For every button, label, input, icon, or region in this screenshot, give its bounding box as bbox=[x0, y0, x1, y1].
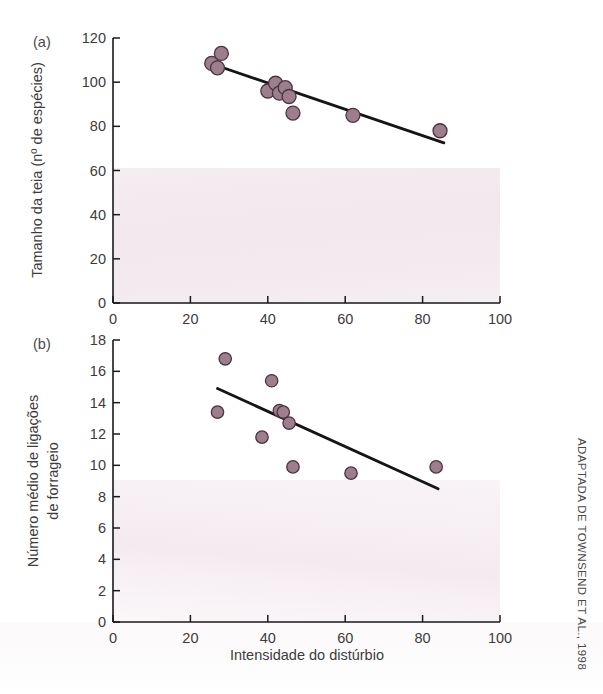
data-point bbox=[282, 90, 296, 104]
x-tick-label: 80 bbox=[415, 311, 431, 327]
panel-b-y-ticks: 024681012141618 bbox=[90, 332, 120, 630]
panel-b-regression-line bbox=[217, 389, 438, 489]
y-tick-label: 16 bbox=[90, 363, 106, 379]
x-tick-label: 60 bbox=[337, 311, 353, 327]
x-tick-label: 40 bbox=[260, 311, 276, 327]
y-tick-label: 60 bbox=[90, 163, 106, 179]
x-axis-title: Intensidade do distúrbio bbox=[230, 647, 384, 663]
data-point bbox=[210, 61, 224, 75]
data-point bbox=[265, 375, 277, 387]
data-point bbox=[286, 106, 300, 120]
data-point bbox=[346, 108, 360, 122]
y-tick-label: 10 bbox=[90, 457, 106, 473]
y-tick-label: 20 bbox=[90, 251, 106, 267]
data-point bbox=[430, 461, 442, 473]
x-tick-label: 100 bbox=[488, 311, 512, 327]
x-tick-label: 80 bbox=[415, 630, 431, 646]
data-point bbox=[219, 353, 231, 365]
y-tick-label: 100 bbox=[82, 74, 106, 90]
y-tick-label: 8 bbox=[98, 489, 106, 505]
panel-b-x-ticks: 020406080100 bbox=[109, 615, 512, 646]
data-point bbox=[433, 124, 447, 138]
y-tick-label: 2 bbox=[98, 583, 106, 599]
y-tick-label: 12 bbox=[90, 426, 106, 442]
data-point bbox=[214, 46, 228, 60]
x-tick-label: 0 bbox=[109, 311, 117, 327]
y-tick-label: 120 bbox=[82, 30, 106, 46]
panel-a-y-axis-title: Tamanho da teia (nº de espécies) bbox=[29, 62, 45, 278]
y-tick-label: 4 bbox=[98, 551, 106, 567]
panel-a-data-points bbox=[205, 46, 447, 137]
panel-b-data-points bbox=[211, 353, 442, 480]
x-tick-label: 0 bbox=[109, 630, 117, 646]
data-point bbox=[283, 417, 295, 429]
x-tick-label: 20 bbox=[182, 630, 198, 646]
panel-a-label: (a) bbox=[33, 34, 51, 50]
figure-container: (a) 020406080100120 020406080100 Tamanho… bbox=[0, 0, 603, 694]
source-credit: ADAPTADA DE TOWNSEND ET AL., 1998 bbox=[576, 438, 588, 670]
panel-b-y-axis-title-line1: Número médio de ligações bbox=[25, 395, 41, 567]
x-tick-label: 20 bbox=[182, 311, 198, 327]
y-tick-label: 80 bbox=[90, 118, 106, 134]
y-tick-label: 18 bbox=[90, 332, 106, 348]
y-tick-label: 40 bbox=[90, 207, 106, 223]
panel-b-label: (b) bbox=[33, 336, 51, 352]
panel-b-y-axis-title-line2: de forrageio bbox=[45, 442, 61, 519]
x-tick-label: 100 bbox=[488, 630, 512, 646]
panel-a-y-ticks: 020406080100120 bbox=[82, 30, 120, 311]
panel-a: (a) 020406080100120 020406080100 Tamanho… bbox=[29, 30, 512, 327]
panel-a-x-ticks: 020406080100 bbox=[109, 296, 512, 327]
data-point bbox=[211, 406, 223, 418]
y-tick-label: 0 bbox=[98, 295, 106, 311]
y-tick-label: 0 bbox=[98, 614, 106, 630]
y-tick-label: 6 bbox=[98, 520, 106, 536]
x-tick-label: 60 bbox=[337, 630, 353, 646]
x-tick-label: 40 bbox=[260, 630, 276, 646]
data-point bbox=[345, 467, 357, 479]
data-point bbox=[256, 431, 268, 443]
data-point bbox=[287, 461, 299, 473]
panel-a-regression-line bbox=[214, 65, 444, 143]
figure-svg: (a) 020406080100120 020406080100 Tamanho… bbox=[0, 0, 603, 694]
y-tick-label: 14 bbox=[90, 395, 106, 411]
panel-b: (b) 024681012141618 020406080100 Número … bbox=[25, 332, 512, 646]
